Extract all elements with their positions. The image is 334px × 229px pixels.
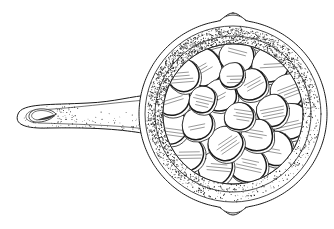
skillet-illustration <box>0 0 334 229</box>
illustration-root: Cast-Iron Skillet with Sliced Potatoes f… <box>0 0 334 229</box>
